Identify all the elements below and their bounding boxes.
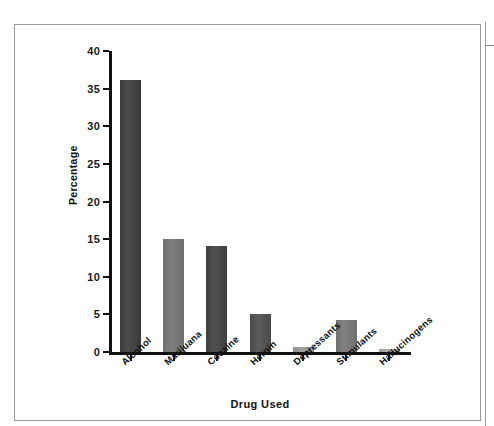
y-axis-tick-mark	[103, 201, 109, 203]
plot-area: 0510152025303540	[109, 51, 411, 355]
y-axis-tick-label: 25	[87, 158, 100, 170]
y-axis-tick-label: 0	[94, 346, 100, 358]
y-axis-tick-mark	[103, 125, 109, 127]
y-axis-tick-mark	[103, 276, 109, 278]
y-axis-tick-label: 15	[87, 233, 100, 245]
y-axis-tick-mark	[103, 50, 109, 52]
y-axis-tick-mark	[103, 163, 109, 165]
y-axis-tick-label: 5	[94, 308, 100, 320]
y-axis-tick-mark	[103, 351, 109, 353]
y-axis-tick-label: 20	[87, 196, 100, 208]
y-axis-tick-label: 10	[87, 271, 100, 283]
y-axis-tick-mark	[103, 313, 109, 315]
y-axis-tick-label: 30	[87, 120, 100, 132]
x-axis-title: Drug Used	[109, 398, 411, 410]
document-page-frame: Percentage 0510152025303540 AlcoholMarij…	[14, 24, 481, 421]
page-right-tick-mark	[485, 45, 494, 46]
bar-fill	[206, 246, 227, 352]
y-axis-tick-mark	[103, 88, 109, 90]
y-axis-tick-mark	[103, 238, 109, 240]
x-axis-category-labels: AlcoholMarijuanaCocaineHeroinDepressants…	[109, 359, 439, 419]
bar	[120, 80, 141, 352]
bar-fill	[163, 239, 184, 352]
bar-chart: Percentage 0510152025303540 AlcoholMarij…	[15, 25, 482, 422]
bar-fill	[120, 80, 141, 352]
y-axis-tick-label: 35	[87, 83, 100, 95]
y-axis-line	[109, 51, 112, 355]
bar	[163, 239, 184, 352]
y-axis-tick-label: 40	[87, 45, 100, 57]
y-axis-title: Percentage	[67, 145, 79, 205]
page-right-rule	[485, 22, 486, 426]
bar	[206, 246, 227, 352]
